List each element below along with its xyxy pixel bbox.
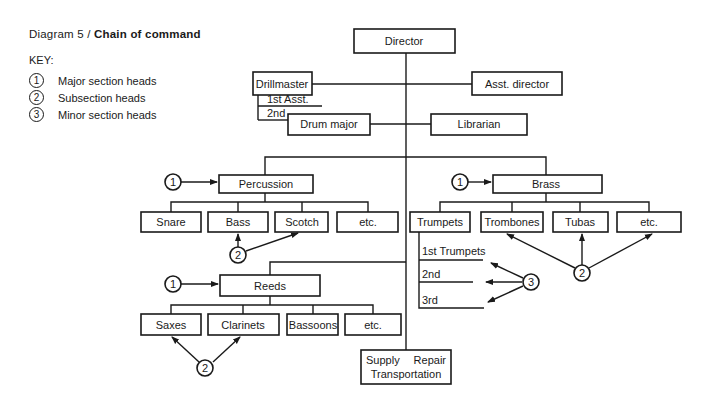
trumpet-section-2: 2nd <box>422 268 440 280</box>
svg-text:1: 1 <box>170 176 176 188</box>
svg-text:Tubas: Tubas <box>565 216 596 228</box>
svg-text:Trombones: Trombones <box>484 216 540 228</box>
svg-text:Bassoons: Bassoons <box>289 319 338 331</box>
svg-text:1: 1 <box>170 278 176 290</box>
node-bass: Bass <box>208 212 268 232</box>
trumpet-section-3: 3rd <box>422 294 438 306</box>
svg-text:Drum major: Drum major <box>300 118 358 130</box>
node-reeds-etc: etc. <box>345 314 401 335</box>
first-asst-label: 1st Asst. <box>267 93 309 105</box>
node-trombones: Trombones <box>481 212 543 232</box>
node-supply: Supply Repair Transportation <box>361 350 451 384</box>
node-librarian: Librarian <box>431 114 527 135</box>
svg-text:Clarinets: Clarinets <box>221 319 265 331</box>
svg-text:1: 1 <box>457 176 463 188</box>
node-drum-major: Drum major <box>288 114 370 135</box>
svg-text:Trumpets: Trumpets <box>417 216 464 228</box>
svg-text:2: 2 <box>579 267 585 279</box>
node-saxes: Saxes <box>141 314 201 335</box>
svg-text:Scotch: Scotch <box>285 216 319 228</box>
node-director: Director <box>354 29 455 53</box>
node-drillmaster: Drillmaster <box>253 72 312 95</box>
svg-text:Snare: Snare <box>156 216 185 228</box>
marker-3-trumpets: 3 <box>486 263 539 302</box>
marker-2-percussion: 2 <box>230 233 298 263</box>
org-chart: Director Drillmaster Asst. director 1st … <box>0 0 710 400</box>
svg-text:etc.: etc. <box>364 319 382 331</box>
svg-text:2: 2 <box>202 362 208 374</box>
svg-text:Asst. director: Asst. director <box>485 78 550 90</box>
svg-text:Supply: Supply <box>366 354 400 366</box>
node-trumpets: Trumpets <box>410 212 470 232</box>
svg-text:Drillmaster: Drillmaster <box>256 78 309 90</box>
svg-text:Transportation: Transportation <box>371 368 442 380</box>
svg-text:Repair: Repair <box>414 354 447 366</box>
marker-2-reeds: 2 <box>172 337 240 376</box>
node-bassoons: Bassoons <box>287 314 338 335</box>
node-percussion-etc: etc. <box>337 212 398 232</box>
node-scotch: Scotch <box>275 212 328 232</box>
node-tubas: Tubas <box>553 212 608 232</box>
svg-text:Librarian: Librarian <box>458 118 501 130</box>
node-clarinets: Clarinets <box>208 314 279 335</box>
svg-text:Director: Director <box>385 35 424 47</box>
marker-1-brass: 1 <box>452 174 491 190</box>
node-reeds: Reeds <box>220 275 320 296</box>
svg-text:3: 3 <box>528 276 534 288</box>
svg-text:etc.: etc. <box>359 216 377 228</box>
svg-text:Reeds: Reeds <box>254 280 286 292</box>
node-snare: Snare <box>141 212 201 232</box>
second-asst-label: 2nd <box>267 107 285 119</box>
marker-1-percussion: 1 <box>165 174 217 190</box>
svg-text:Saxes: Saxes <box>156 319 187 331</box>
svg-text:Bass: Bass <box>226 216 251 228</box>
node-asst-director: Asst. director <box>472 72 562 95</box>
trumpet-section-1: 1st Trumpets <box>422 245 486 257</box>
node-percussion: Percussion <box>219 175 313 193</box>
svg-text:etc.: etc. <box>640 216 658 228</box>
node-brass-etc: etc. <box>617 212 681 232</box>
svg-text:Percussion: Percussion <box>239 178 293 190</box>
marker-1-reeds: 1 <box>165 276 218 292</box>
svg-text:Brass: Brass <box>532 178 561 190</box>
svg-text:2: 2 <box>235 249 241 261</box>
node-brass: Brass <box>493 175 602 193</box>
